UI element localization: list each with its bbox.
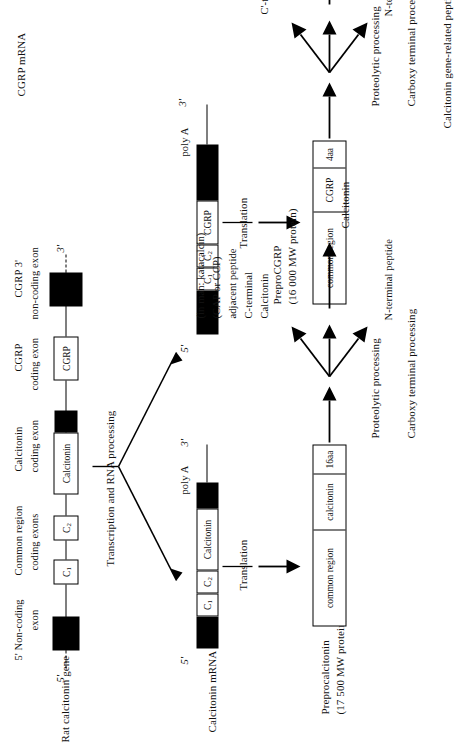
gene-header-cgrp-3p: CGRP 3' — [12, 259, 24, 297]
gene-exon-cgrp-noncoding — [49, 272, 82, 306]
gene-header-cgrp: CGRP — [12, 343, 24, 371]
gene-exon-noncoding-5p — [52, 616, 79, 650]
calcitonin-mrna-3p: 3' — [178, 438, 190, 446]
row-label-cgrp-mrna: CGRP mRNA — [14, 32, 27, 96]
preprocalcitonin-box: common region calcitonin 16aa — [312, 444, 346, 626]
figure-canvas: Rat calcitonin gene 5' Non-coding exon C… — [0, 0, 463, 756]
row-label-calcitonin-mrna: Calcitonin mRNA — [205, 650, 218, 732]
gene-header-calcitonin-exon: coding exon — [28, 419, 40, 472]
calcitonin-mrna-c2: C2 — [196, 570, 218, 593]
calcitonin-mrna-calcitonin: Calcitonin — [196, 508, 218, 570]
gene-exon-c1: C1 — [53, 559, 78, 584]
gene-exon-calcitonin-black — [54, 410, 77, 432]
gene-header-calcitonin: Calcitonin — [12, 426, 24, 471]
calcitonin-branch-up-line1: Calcitonin — [258, 273, 270, 318]
row-label-preprocalcitonin-mw: (17 500 MW protein) — [333, 618, 346, 714]
translation-label-cgrp: Translation — [236, 197, 249, 248]
calcitonin-branch-down-label: N-terminal peptide — [382, 239, 394, 320]
calcitonin-branch-up-line5: (in man: katacalcin) — [194, 232, 206, 318]
proteolytic-processing-label-cgrp: Proteolytic processing — [368, 6, 381, 106]
cgrp-mrna-5p: 5' — [178, 344, 190, 352]
preprocalcitonin-seg-16aa: 16aa — [313, 445, 345, 473]
gene-exon-cgrp-label: CGRP — [54, 337, 77, 379]
cgrp-mrna-black-3p — [196, 144, 218, 200]
gene-header-cgrp-exon: coding exon — [28, 337, 40, 390]
calcitonin-mrna-polya-label: poly A — [178, 465, 190, 494]
calcitonin-mrna-polya-tail — [206, 444, 207, 482]
gene-right-dash — [65, 254, 66, 272]
cgrp-branch-down-label: N-terminal peptide — [382, 0, 394, 16]
row-label-preprocalcitonin: Preprocalcitonin — [318, 640, 331, 714]
gene-exon-c1-label: C1 — [54, 560, 77, 583]
cgrp-mrna-polya-tail — [206, 104, 207, 144]
cgrp-mrna-3p: 3' — [176, 98, 188, 106]
row-label-gene: Rat calcitonin gene — [58, 655, 71, 742]
gene-header-exon: exon — [28, 609, 40, 630]
calcitonin-branch-up-line2: C-terminal — [242, 272, 254, 319]
translation-label-calcitonin: Translation — [236, 539, 249, 590]
calcitonin-mrna-c1: C1 — [196, 593, 218, 616]
proteolytic-processing-label-calcitonin: Proteolytic processing — [368, 338, 381, 438]
gene-exon-cgrp: CGRP — [53, 336, 78, 380]
row-label-preprocgrp: PreproCGRP — [270, 245, 283, 304]
calcitonin-branch-product: Calcitonin — [338, 181, 351, 228]
calcitonin-branch-up-line3: adjacent peptide — [226, 248, 238, 318]
cgrp-mrna-polya-label: poly A — [178, 127, 190, 156]
calcitonin-mrna-black-5p — [196, 616, 218, 648]
gene-exon-c2-label: C2 — [54, 516, 77, 539]
figure-stage: Rat calcitonin gene 5' Non-coding exon C… — [0, 0, 463, 756]
gene-exon-calcitonin-label: Calcitonin — [54, 433, 77, 493]
gene-left-dash — [65, 650, 66, 668]
cgrp-branch-up-label: C'-terminal peptide — [258, 0, 270, 14]
gene-three-prime-label: 3' — [54, 244, 66, 252]
gene-header-common-region: Common region — [12, 505, 24, 575]
gene-exon-c2: C2 — [53, 515, 78, 540]
calcitonin-mrna-calcitonin-label: Calcitonin — [197, 509, 217, 569]
cgrp-branch-product: Calcitonin gene-related peptide (CGRP) — [440, 0, 453, 128]
gene-five-prime-label: 5' — [54, 674, 66, 682]
carboxy-terminal-processing-label-cgrp: Carboxy terminal processing — [404, 0, 417, 106]
preprocgrp-seg-4aa: 4aa — [313, 141, 345, 167]
calcitonin-branch-up-line4: (CAP or CCP) — [210, 256, 222, 318]
calcitonin-mrna-c2-label: C2 — [197, 571, 217, 592]
gene-header-cgrp-noncoding-exon: non-coding exon — [28, 247, 40, 319]
gene-header-common-exons: coding exons — [28, 513, 40, 570]
preprocalcitonin-seg-calcitonin: calcitonin — [313, 473, 345, 529]
calcitonin-mrna-black-3p — [196, 482, 218, 508]
gene-exon-calcitonin: Calcitonin — [53, 432, 78, 494]
preprocalcitonin-seg-common-region: common region — [313, 529, 345, 625]
carboxy-terminal-processing-label-calcitonin: Carboxy terminal processing — [404, 308, 417, 438]
row-label-preprocgrp-mw: (16 000 MW protein) — [285, 208, 298, 304]
gene-header-5p-noncoding: 5' Non-coding — [12, 599, 24, 660]
transcription-rna-processing-label: Transcription and RNA processing — [103, 410, 116, 566]
calcitonin-mrna-c1-label: C1 — [197, 594, 217, 615]
calcitonin-mrna-5p: 5' — [178, 656, 190, 664]
